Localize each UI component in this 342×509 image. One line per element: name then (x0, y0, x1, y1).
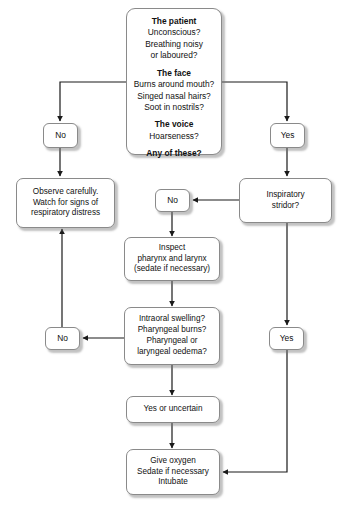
node-no-top-left: No (43, 123, 78, 148)
node-yes-or-uncertain: Yes or uncertain (126, 396, 220, 423)
swelling-line: Pharyngeal burns? (128, 325, 216, 336)
edge-assessment-to-yes (222, 82, 287, 121)
inspect-line: pharynx and larynx (128, 254, 216, 265)
treatment-line: Sedate if necessary (130, 467, 216, 478)
swelling-line: laryngeal oedema? (128, 347, 216, 358)
node-yes-top-right: Yes (270, 123, 305, 148)
assessment-line: Soot in nostrils? (130, 102, 218, 113)
observe-line: respiratory distress (20, 208, 111, 219)
node-inspiratory-stridor: Inspiratory stridor? (239, 178, 332, 223)
node-label: Yes (273, 333, 300, 344)
node-label: No (47, 130, 74, 141)
node-label: No (49, 333, 76, 344)
assessment-line: Hoarseness? (130, 131, 218, 142)
stridor-line: Inspiratory (243, 190, 328, 201)
node-no-stridor: No (155, 189, 190, 212)
assessment-line: Singed nasal hairs? (130, 91, 218, 102)
assessment-question: Any of these? (130, 148, 218, 159)
assessment-line: Burns around mouth? (130, 79, 218, 90)
assessment-heading-voice: The voice (130, 119, 218, 130)
node-observe: Observe carefully. Watch for signs of re… (16, 178, 115, 228)
stridor-line: stridor? (243, 201, 328, 212)
treatment-line: Give oxygen (130, 456, 216, 467)
node-label: Yes (274, 130, 301, 141)
swelling-line: Pharyngeal or (128, 336, 216, 347)
assessment-line: or laboured? (130, 50, 218, 61)
assessment-line: Breathing noisy (130, 39, 218, 50)
observe-line: Watch for signs of (20, 198, 111, 209)
edge-assessment-to-no (60, 82, 126, 121)
assessment-line: Unconscious? (130, 27, 218, 38)
assessment-heading-patient: The patient (130, 16, 218, 27)
treatment-line: Intubate (130, 477, 216, 488)
assessment-heading-face: The face (130, 68, 218, 79)
observe-line: Observe carefully. (20, 187, 111, 198)
flowchart-canvas: The patient Unconscious? Breathing noisy… (0, 0, 342, 509)
node-treatment: Give oxygen Sedate if necessary Intubate (126, 449, 220, 495)
node-yes-stridor: Yes (269, 327, 304, 350)
node-label: No (159, 195, 186, 206)
inspect-line: (sedate if necessary) (128, 264, 216, 275)
edge-yes-stridor-to-treatment (223, 349, 287, 472)
node-swelling: Intraoral swelling? Pharyngeal burns? Ph… (124, 307, 220, 365)
inspect-line: Inspect (128, 243, 216, 254)
node-inspect: Inspect pharynx and larynx (sedate if ne… (124, 237, 220, 281)
node-no-swelling: No (45, 327, 80, 350)
node-assessment: The patient Unconscious? Breathing noisy… (126, 8, 222, 155)
yes-uncertain-line: Yes or uncertain (130, 404, 216, 415)
swelling-line: Intraoral swelling? (128, 314, 216, 325)
